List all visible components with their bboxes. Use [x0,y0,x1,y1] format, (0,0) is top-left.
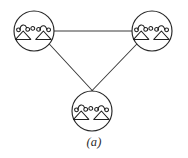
figure-caption: (a) [0,134,188,150]
figure-container: (a) [0,0,188,158]
node-top-left[interactable] [14,11,54,51]
node-top-right[interactable] [132,11,172,51]
node-bottom[interactable] [72,91,112,131]
